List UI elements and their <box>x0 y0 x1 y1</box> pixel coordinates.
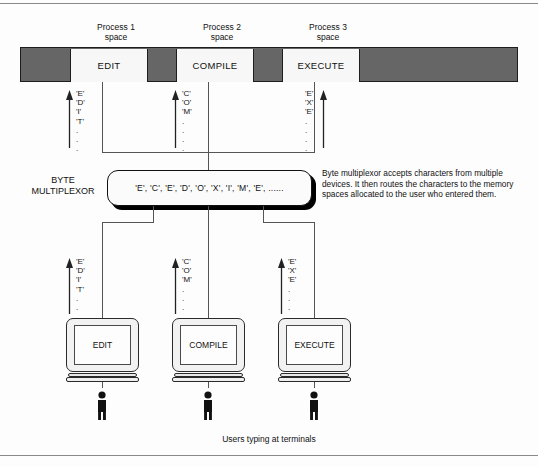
upper-wire-p2 <box>208 82 209 153</box>
lower-wire-mux-3 <box>263 206 264 222</box>
lower-wire-t1 <box>102 222 103 318</box>
lower-arrow-t3-icon <box>278 258 285 314</box>
diagram-caption: Users typing at terminals <box>0 434 538 444</box>
process-3-header: Process 3 space <box>290 22 366 42</box>
memory-slot-execute: EXECUTE <box>282 49 360 82</box>
lower-chars-t1: 'E' 'D' 'I' 'T' . . . <box>76 257 85 321</box>
bottom-divider-rule <box>0 455 538 456</box>
terminal-screen-label: COMPILE <box>180 325 237 365</box>
upper-chars-p2: 'C' 'O' 'M' . . . . <box>182 89 192 153</box>
upper-bus-to-mux <box>208 152 209 171</box>
upper-arrow-p1-icon <box>66 90 73 148</box>
diagram-canvas: Process 1 space Process 2 space Process … <box>0 0 538 467</box>
upper-arrow-p3-icon <box>320 90 327 148</box>
process-1-header: Process 1 space <box>78 22 154 42</box>
user-person-3-icon <box>307 391 321 421</box>
top-divider-rule <box>0 3 538 4</box>
terminal-screen-label: EXECUTE <box>286 325 343 365</box>
upper-chars-p3: 'E' 'X' 'E' . . . . <box>305 89 313 153</box>
lower-wire-t3 <box>314 222 315 318</box>
terminal-1-user-stub <box>102 382 103 388</box>
user-person-1-icon <box>95 391 109 421</box>
multiplexor-box: 'E', 'C', 'E', 'D', 'O', 'X', 'I', 'M', … <box>107 170 312 206</box>
terminal-2-user-stub <box>208 382 209 388</box>
lower-wire-mux-1 <box>153 206 154 222</box>
terminal-3-user-stub <box>314 382 315 388</box>
user-person-2-icon <box>201 391 215 421</box>
multiplexor-label: BYTE MULTIPLEXOR <box>24 175 102 197</box>
terminal-screen-label: EDIT <box>74 325 131 365</box>
lower-chars-t3: 'E' 'X' 'E' . . . . <box>288 257 296 321</box>
memory-bar: EDIT COMPILE EXECUTE <box>20 47 518 82</box>
lower-bus-left <box>102 222 154 223</box>
lower-wire-mux-2 <box>208 206 209 318</box>
multiplexor-description: Byte multiplexor accepts characters from… <box>322 168 534 200</box>
upper-wire-p1 <box>102 82 103 153</box>
lower-arrow-t2-icon <box>172 258 179 314</box>
upper-chars-p1: 'E' 'D' 'I' 'T' . . . <box>76 89 85 153</box>
memory-slot-compile: COMPILE <box>176 49 254 82</box>
upper-arrow-p2-icon <box>172 90 179 148</box>
memory-slot-edit: EDIT <box>70 49 148 82</box>
lower-chars-t2: 'C' 'O' 'M' . . . . <box>182 257 192 321</box>
lower-arrow-t1-icon <box>66 258 73 314</box>
process-2-header: Process 2 space <box>184 22 260 42</box>
lower-bus-right <box>263 222 315 223</box>
upper-wire-p3 <box>314 82 315 153</box>
